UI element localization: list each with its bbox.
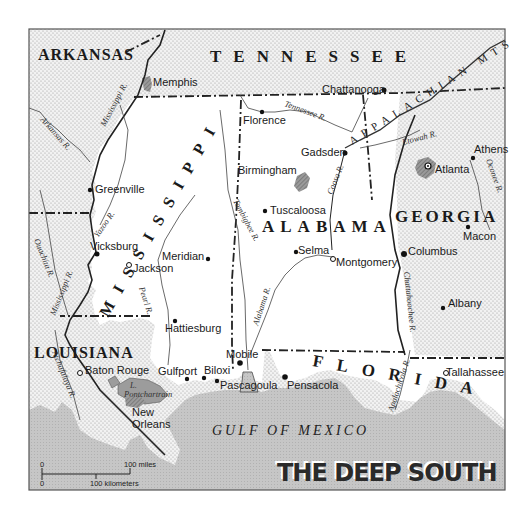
city-label-new-orleans-line1: New [132,406,154,418]
mobile-marker [237,360,243,366]
city-label-macon: Macon [463,230,496,242]
city-label-columbus: Columbus [408,245,458,257]
baton-rouge-marker [78,371,83,376]
city-label-meridian: Meridian [162,250,204,262]
greenville-marker [88,188,92,192]
city-label-albany: Albany [448,297,482,309]
vicksburg-marker [95,252,100,257]
athens-marker [471,156,475,160]
city-label-vicksburg: Vicksburg [90,240,138,252]
city-label-gulfport: Gulfport [158,365,197,377]
city-label-atlanta: Atlanta [435,163,470,175]
scale-miles-label: 100 miles [124,460,156,469]
macon-marker [466,225,470,229]
gulfport-marker [185,377,189,381]
city-label-greenville: Greenville [95,183,145,195]
city-label-chattanooga: Chattanooga [322,83,386,95]
lake-label-line2: Pontchartrain [123,389,172,399]
scale-miles-zero: 0 [40,460,44,469]
atlanta-marker-dot [427,165,429,167]
montgomery-marker [331,257,336,262]
albany-marker [441,306,445,310]
state-label-georgia: GEORGIA [395,207,498,226]
city-label-birmingham: Birmingham [238,164,297,176]
tuscaloosa-marker [263,209,267,213]
city-label-new-orleans-line2: Orleans [132,418,171,430]
state-label-louisiana: LOUISIANA [34,344,134,361]
city-label-baton-rouge: Baton Rouge [85,364,149,376]
city-label-athens: Athens [474,143,509,155]
city-label-tallahassee: Tallahassee [446,366,504,378]
city-label-florence: Florence [243,114,286,126]
city-label-selma: Selma [298,244,330,256]
city-label-tuscaloosa: Tuscaloosa [270,204,327,216]
state-label-tennessee: TENNESSEE [210,47,418,66]
gulf-of-mexico-label: GULF OF MEXICO [212,423,369,438]
city-label-pensacola: Pensacola [287,379,339,391]
meridian-marker [206,257,210,261]
scale-km-zero: 0 [40,479,44,488]
map-title: THE DEEP SOUTH [277,459,497,487]
state-label-arkansas: ARKANSAS [38,46,134,63]
city-label-hattiesburg: Hattiesburg [165,322,221,334]
city-label-pascagoula: Pascagoula [220,379,278,391]
pascagoula-marker [215,379,219,383]
city-label-jackson: Jackson [133,262,173,274]
biloxi-marker [202,376,206,380]
city-label-mobile: Mobile [226,348,258,360]
city-label-memphis: Memphis [153,76,198,88]
state-label-alabama: ALABAMA [262,217,392,236]
city-label-gadsden: Gadsden [301,146,346,158]
scale-km-label: 100 kilometers [90,479,139,488]
city-label-montgomery: Montgomery [336,256,398,268]
deep-south-map: ARKANSAS TENNESSEE MISSISSIPPI ALABAMA G… [0,0,532,518]
city-label-biloxi: Biloxi [204,364,230,376]
columbus-marker [401,251,407,257]
jackson-marker [127,263,132,268]
